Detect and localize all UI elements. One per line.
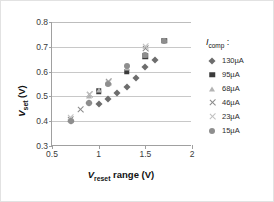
legend-item[interactable]: 68µA	[206, 82, 272, 96]
data-point	[142, 52, 148, 57]
data-point	[86, 100, 92, 106]
x-axis-title: Vreset range (V)	[51, 169, 191, 182]
figure-container: Vset (V) 0.30.40.50.60.70.80.511.52 Vres…	[0, 0, 274, 202]
legend-item-label: 68µA	[222, 84, 240, 93]
y-tick-label: 0.4	[36, 116, 48, 126]
data-point	[96, 88, 102, 94]
legend-marker-icon	[206, 97, 218, 109]
legend-marker-icon	[206, 55, 218, 67]
data-point	[161, 38, 167, 44]
triangle-marker-icon	[209, 86, 215, 91]
data-point	[105, 79, 112, 86]
data-point	[161, 37, 167, 42]
y-tick-label: 0.6	[36, 67, 48, 77]
data-point	[95, 100, 102, 107]
data-point	[86, 100, 93, 107]
diamond-marker-icon	[208, 57, 215, 64]
y-tick-label: 0.7	[36, 42, 48, 52]
data-point	[132, 74, 139, 81]
x-tick-label: 1	[96, 149, 101, 159]
gridline-horizontal	[52, 47, 191, 48]
y-tick-label: 0.8	[36, 17, 48, 27]
legend-item-label: 23µA	[222, 112, 240, 121]
legend-item[interactable]: 130µA	[206, 54, 272, 68]
legend-item-label: 46µA	[222, 98, 240, 107]
data-point	[77, 106, 84, 113]
plot-area: 0.30.40.50.60.70.80.511.52	[51, 22, 191, 146]
legend-item-label: 95µA	[222, 70, 240, 79]
square-marker-icon	[209, 72, 215, 78]
y-tick-label: 0.5	[36, 91, 48, 101]
data-point	[142, 63, 149, 70]
data-point	[67, 114, 74, 121]
y-tick-mark	[49, 96, 52, 97]
data-point	[105, 80, 111, 85]
y-axis-title: Vset (V)	[16, 85, 29, 117]
gridline-horizontal	[52, 96, 191, 97]
legend-marker-icon	[206, 111, 218, 123]
gridline-horizontal	[52, 72, 191, 73]
x-tick-label: 0.5	[46, 149, 58, 159]
legend-item[interactable]: 95µA	[206, 68, 272, 82]
legend-item[interactable]: 15µA	[206, 124, 272, 138]
legend: Icomp : 130µA95µA68µA46µA23µA15µA	[206, 37, 272, 138]
cross-marker-icon	[209, 99, 216, 106]
gridline-horizontal	[52, 121, 191, 122]
legend-marker-icon	[206, 69, 218, 81]
legend-item[interactable]: 46µA	[206, 96, 272, 110]
data-point	[143, 53, 149, 59]
data-point	[105, 81, 111, 87]
data-point	[124, 66, 130, 71]
y-tick-mark	[49, 47, 52, 48]
x-marker-icon	[209, 113, 216, 120]
gridline-horizontal	[52, 22, 191, 23]
x-tick-label: 2	[190, 149, 195, 159]
data-point	[96, 88, 102, 93]
data-point	[124, 63, 130, 69]
legend-marker-icon	[206, 125, 218, 137]
y-tick-mark	[49, 22, 52, 23]
circle-marker-icon	[209, 128, 215, 134]
y-tick-mark	[49, 72, 52, 73]
data-point	[123, 84, 130, 91]
legend-item[interactable]: 23µA	[206, 110, 272, 124]
legend-title: Icomp :	[206, 37, 272, 49]
legend-item-label: 15µA	[222, 126, 240, 135]
data-point	[161, 38, 167, 44]
data-point	[105, 78, 112, 85]
legend-marker-icon	[206, 83, 218, 95]
data-point	[142, 52, 148, 58]
data-point	[151, 56, 158, 63]
y-tick-mark	[49, 121, 52, 122]
x-tick-label: 1.5	[139, 149, 151, 159]
legend-item-label: 130µA	[222, 56, 244, 65]
